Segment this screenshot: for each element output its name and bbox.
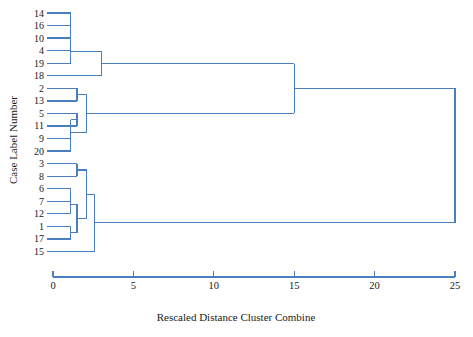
x-tick-label-group: 0510152025 [50, 280, 460, 291]
case-label-4: 4 [39, 45, 44, 56]
x-tick-label-10: 10 [209, 280, 220, 291]
x-tick-label-5: 5 [131, 280, 136, 291]
case-label-3: 3 [39, 158, 44, 169]
dendrogram-chart: 1416104191821351192038671211715 05101520… [0, 0, 473, 337]
x-tick-label-15: 15 [289, 280, 300, 291]
case-label-11: 11 [34, 120, 44, 131]
x-tick-label-20: 20 [369, 280, 380, 291]
case-label-group: 1416104191821351192038671211715 [34, 8, 53, 257]
y-axis-title: Case Label Number [7, 96, 19, 184]
x-tick-label-25: 25 [450, 280, 461, 291]
case-label-13: 13 [34, 95, 44, 106]
case-label-2: 2 [39, 83, 44, 94]
case-label-5: 5 [39, 108, 44, 119]
case-label-14: 14 [34, 8, 44, 19]
dendrogram-links [53, 13, 455, 251]
case-label-18: 18 [34, 70, 44, 81]
case-label-17: 17 [34, 233, 44, 244]
case-label-7: 7 [39, 196, 44, 207]
case-label-16: 16 [34, 20, 44, 31]
dendrogram-svg: 1416104191821351192038671211715 05101520… [0, 0, 473, 337]
case-label-1: 1 [39, 221, 44, 232]
x-axis [53, 271, 455, 277]
case-label-10: 10 [34, 33, 44, 44]
case-label-15: 15 [34, 246, 44, 257]
case-label-6: 6 [39, 183, 44, 194]
case-label-19: 19 [34, 58, 44, 69]
x-axis-title: Rescaled Distance Cluster Combine [157, 311, 316, 323]
case-label-20: 20 [34, 146, 44, 157]
case-label-8: 8 [39, 171, 44, 182]
case-label-12: 12 [34, 208, 44, 219]
x-tick-label-0: 0 [50, 280, 55, 291]
case-label-9: 9 [39, 133, 44, 144]
